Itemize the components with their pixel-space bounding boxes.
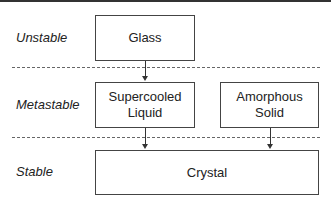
- node-supercooled-liquid: Supercooled Liquid: [95, 82, 195, 128]
- arrowhead-icon: [267, 144, 273, 149]
- node-glass: Glass: [95, 15, 195, 61]
- edge-supercooled-crystal: [145, 128, 146, 145]
- node-crystal-label: Crystal: [187, 165, 227, 181]
- edge-glass-supercooled: [145, 61, 146, 77]
- level-label-metastable: Metastable: [16, 97, 80, 112]
- edge-amorphous-crystal: [270, 128, 271, 145]
- arrowhead-icon: [142, 144, 148, 149]
- level-label-unstable: Unstable: [16, 30, 67, 45]
- divider-unstable-metastable: [12, 67, 320, 68]
- node-glass-label: Glass: [128, 30, 161, 46]
- node-amorphous-line1: Amorphous: [236, 89, 302, 105]
- node-supercooled-line1: Supercooled: [109, 89, 182, 105]
- level-label-stable: Stable: [16, 164, 53, 179]
- node-crystal: Crystal: [95, 150, 319, 195]
- node-amorphous-solid: Amorphous Solid: [220, 82, 319, 128]
- top-border: [0, 0, 331, 2]
- divider-metastable-stable: [12, 137, 320, 138]
- arrowhead-icon: [142, 76, 148, 81]
- node-supercooled-line2: Liquid: [128, 105, 163, 121]
- node-amorphous-line2: Solid: [255, 105, 284, 121]
